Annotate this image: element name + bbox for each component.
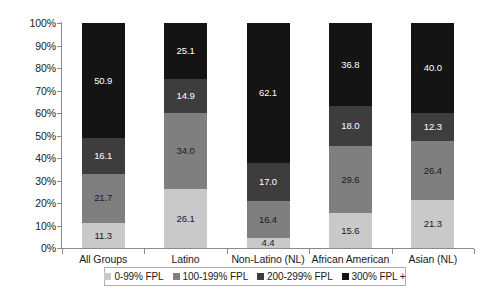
bar-segment: 25.1 [164,23,207,79]
legend-item[interactable]: 100-199% FPL [173,271,249,282]
bar-segment-value: 40.0 [424,63,442,73]
bar-segment-value: 18.0 [341,121,359,131]
bar-segment-value: 12.3 [424,122,442,132]
legend-item[interactable]: 200-299% FPL [257,271,333,282]
bar-segment: 21.3 [411,200,454,248]
y-axis-tick-label: 0% [0,242,56,254]
bar-segment-value: 62.1 [259,88,277,98]
bar-segment: 26.4 [411,141,454,200]
bar-latino: 26.134.014.925.1 [164,23,207,248]
bar-segment-value: 4.4 [262,238,275,248]
bar-segment-value: 17.0 [259,177,277,187]
bar-segment-value: 36.8 [341,60,359,70]
bar-segment: 40.0 [411,23,454,113]
y-axis-tick-label: 40% [0,152,56,164]
y-axis-tick-label: 50% [0,130,56,142]
legend-swatch-icon [257,273,264,280]
legend-label: 100-199% FPL [183,271,249,282]
bar-segment: 26.1 [164,189,207,248]
legend-label: 0-99% FPL [114,271,163,282]
bar-segment: 62.1 [247,23,290,163]
stacked-bar-chart: 100%90%80%70%60%50%40%30%20%10%0% 11.321… [0,0,504,305]
bar-segment-value: 16.1 [94,151,112,161]
bar-segment-value: 16.4 [259,215,277,225]
bar-segment-value: 14.9 [177,91,195,101]
legend-label: 200-299% FPL [267,271,333,282]
bar-segment: 16.4 [247,201,290,238]
bar-segment: 11.3 [82,223,125,248]
legend-swatch-icon [173,273,180,280]
plot-area: 11.321.716.150.926.134.014.925.14.416.41… [62,23,474,248]
y-axis-tick-label: 20% [0,197,56,209]
y-axis-tick-label: 70% [0,85,56,97]
bar-segment-value: 29.6 [341,175,359,185]
bar-segment: 15.6 [329,213,372,248]
bar-segment: 21.7 [82,174,125,223]
bar-segment: 36.8 [329,23,372,106]
bar-segment: 34.0 [164,113,207,189]
bar-segment: 14.9 [164,79,207,112]
bar-segment-value: 25.1 [177,46,195,56]
bar-non-latino-nl-white: 4.416.417.062.1 [247,23,290,248]
bar-segment-value: 21.3 [424,219,442,229]
legend-item[interactable]: 0-99% FPL [104,271,163,282]
bar-segment: 17.0 [247,163,290,201]
bar-african-american-nl: 15.629.618.036.8 [329,23,372,248]
y-axis-tick-label: 10% [0,220,56,232]
bar-asian-nl: 21.326.412.340.0 [411,23,454,248]
x-axis-category-line: Asian (NL) [384,253,482,266]
bar-all-groups: 11.321.716.150.9 [82,23,125,248]
bar-segment-value: 50.9 [94,76,112,86]
bar-segment: 16.1 [82,138,125,174]
bar-segment-value: 15.6 [341,226,359,236]
y-axis-tick-label: 60% [0,107,56,119]
y-axis-tick-label: 100% [0,17,56,29]
legend-item[interactable]: 300% FPL + [342,271,406,282]
bar-segment: 29.6 [329,146,372,213]
bar-segment-value: 26.4 [424,166,442,176]
bar-segment: 18.0 [329,106,372,147]
bar-segment: 50.9 [82,23,125,138]
x-axis-line [61,248,474,249]
legend-swatch-icon [342,273,349,280]
y-axis-tick-label: 90% [0,40,56,52]
bar-segment-value: 11.3 [94,231,111,241]
legend-label: 300% FPL + [352,271,406,282]
bar-segment-value: 34.0 [177,146,195,156]
legend-swatch-icon [104,273,111,280]
bar-segment: 12.3 [411,113,454,141]
y-axis-tick-label: 30% [0,175,56,187]
chart-legend: 0-99% FPL100-199% FPL200-299% FPL300% FP… [104,267,406,286]
bar-segment: 4.4 [247,238,290,248]
x-axis-category-label: Asian (NL) [384,253,482,266]
bar-segment-value: 26.1 [177,214,195,224]
y-axis-tick-label: 80% [0,62,56,74]
bar-segment-value: 21.7 [94,193,112,203]
